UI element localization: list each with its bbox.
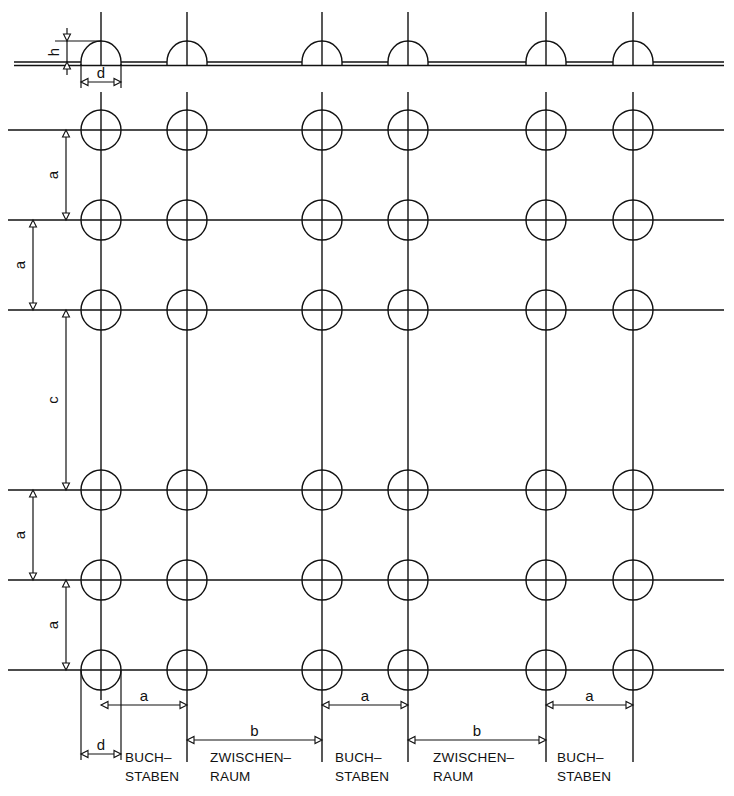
dimension-label: b xyxy=(250,722,258,739)
dimension-label: d xyxy=(97,736,105,753)
arrowhead-icon xyxy=(30,490,37,497)
horizontal-dimension-d: d xyxy=(81,64,121,86)
caption-line-2: STABEN xyxy=(335,769,389,784)
caption-line-2: RAUM xyxy=(210,769,251,784)
vertical-dimension-a: a xyxy=(44,130,70,220)
vertical-dimension-a: a xyxy=(11,220,37,310)
horizontal-dimension-d: d xyxy=(81,736,121,758)
height-dimension: h xyxy=(45,28,101,75)
arrowhead-icon xyxy=(63,213,70,220)
caption-block: ZWISCHEN–RAUM xyxy=(433,750,515,784)
arrowhead-icon xyxy=(114,79,121,86)
dimension-label: a xyxy=(44,620,61,629)
arrowhead-icon xyxy=(539,737,546,744)
dimension-label: a xyxy=(585,687,594,704)
dimension-label: a xyxy=(11,530,28,539)
arrowhead-icon xyxy=(81,79,88,86)
arrowhead-icon xyxy=(408,737,415,744)
vertical-dimension-c: c xyxy=(44,310,70,490)
arrowhead-icon xyxy=(63,310,70,317)
horizontal-dimension-b: b xyxy=(408,722,546,744)
horizontal-dimension-a: a xyxy=(546,687,633,709)
arrowhead-icon xyxy=(401,702,408,709)
caption-line-1: ZWISCHEN– xyxy=(210,750,292,765)
arrowhead-icon xyxy=(546,702,553,709)
arrowhead-icon xyxy=(322,702,329,709)
arrowhead-icon xyxy=(187,737,194,744)
caption-line-1: BUCH– xyxy=(335,750,382,765)
caption-line-1: ZWISCHEN– xyxy=(433,750,515,765)
horizontal-dimension-a: a xyxy=(101,687,187,709)
dimension-label: c xyxy=(44,396,61,404)
dimension-label: d xyxy=(97,64,105,81)
arrowhead-icon xyxy=(315,737,322,744)
arrowhead-icon xyxy=(114,751,121,758)
arrowhead-icon xyxy=(30,220,37,227)
caption-block: ZWISCHEN–RAUM xyxy=(210,750,292,784)
arrowhead-icon xyxy=(81,751,88,758)
vertical-dimension-a: a xyxy=(44,580,70,670)
vertical-dimensions: aacaa xyxy=(11,130,70,670)
dimension-label: a xyxy=(11,260,28,269)
arrowhead-icon xyxy=(30,573,37,580)
height-label: h xyxy=(45,48,62,56)
dot-grid xyxy=(8,92,724,762)
caption-block: BUCH–STABEN xyxy=(557,750,611,784)
horizontal-dimensions: ababadd xyxy=(81,64,633,760)
horizontal-dimension-a: a xyxy=(322,687,408,709)
arrowhead-icon xyxy=(64,34,71,41)
arrowhead-icon xyxy=(180,702,187,709)
horizontal-dimension-b: b xyxy=(187,722,322,744)
caption-line-2: RAUM xyxy=(433,769,474,784)
braille-dimension-diagram: aacaa ababadd BUCH–STABENZWISCHEN–RAUMBU… xyxy=(0,0,734,796)
arrowhead-icon xyxy=(63,483,70,490)
arrowhead-icon xyxy=(30,303,37,310)
vertical-dimension-a: a xyxy=(11,490,37,580)
caption-line-1: BUCH– xyxy=(557,750,604,765)
caption-line-1: BUCH– xyxy=(125,750,172,765)
diagram-svg: aacaa ababadd BUCH–STABENZWISCHEN–RAUMBU… xyxy=(0,0,734,796)
caption-line-2: STABEN xyxy=(557,769,611,784)
arrowhead-icon xyxy=(63,130,70,137)
arrowhead-icon xyxy=(63,580,70,587)
dimension-label: a xyxy=(140,687,149,704)
dimension-label: b xyxy=(473,722,481,739)
dimension-label: a xyxy=(361,687,370,704)
arrowhead-icon xyxy=(101,702,108,709)
dot-profile-section xyxy=(14,12,724,66)
captions: BUCH–STABENZWISCHEN–RAUMBUCH–STABENZWISC… xyxy=(125,750,611,784)
caption-line-2: STABEN xyxy=(125,769,179,784)
arrowhead-icon xyxy=(63,663,70,670)
arrowhead-icon xyxy=(626,702,633,709)
caption-block: BUCH–STABEN xyxy=(335,750,389,784)
dimension-label: a xyxy=(44,170,61,179)
caption-block: BUCH–STABEN xyxy=(125,750,179,784)
